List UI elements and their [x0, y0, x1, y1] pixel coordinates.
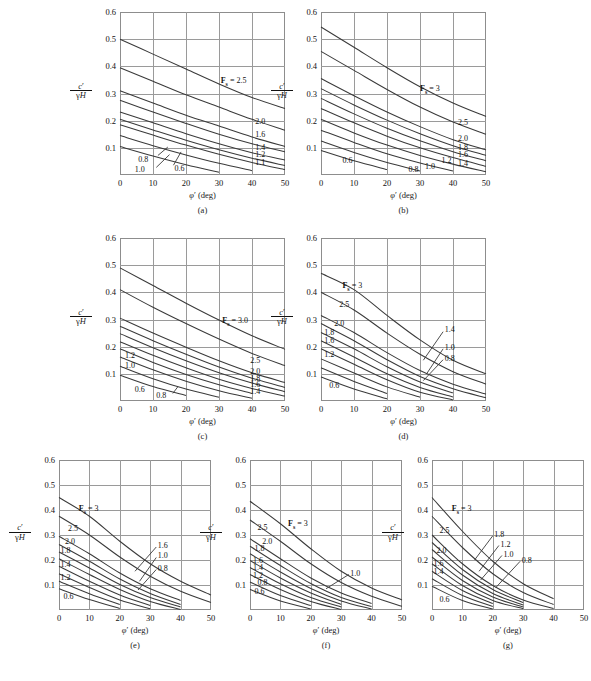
label-leader-line [481, 556, 502, 581]
fs-legend-label-g: Fs = 3 [452, 504, 472, 515]
curve-label-2.5: 2.5 [440, 526, 450, 535]
curve-label-1.0: 1.0 [503, 550, 513, 559]
curve-label-2.0: 2.0 [437, 546, 447, 555]
curve-label-0.6: 0.6 [440, 595, 450, 604]
curve-label-0.8: 0.8 [522, 556, 532, 565]
curve-layer-g [0, 0, 591, 681]
curve-label-1.8: 1.8 [494, 530, 504, 539]
curve-fs-2.5 [432, 516, 554, 604]
curve-label-1.4: 1.4 [434, 567, 444, 576]
curve-label-1.2: 1.2 [500, 540, 510, 549]
